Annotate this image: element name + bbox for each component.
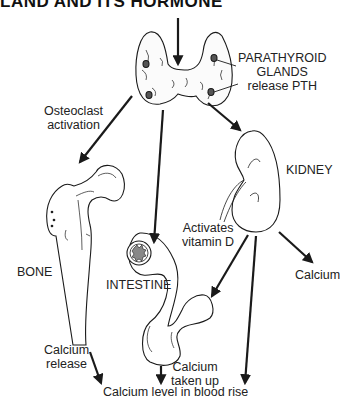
kidney-drawing (220, 131, 280, 232)
bone-drawing (47, 165, 125, 345)
arrow-glands-to-kidney (208, 103, 240, 130)
parathyroid-gland-drawing (136, 32, 238, 106)
label-line: GLANDS (238, 65, 326, 79)
label-line: activation (44, 118, 103, 132)
label-blood-calcium-rise: Calcium level in blood rise (103, 385, 248, 399)
label-line: release (44, 357, 89, 371)
label-activates-vitamin-d: Activates vitamin D (182, 221, 234, 249)
label-calcium-excretion: Calcium (295, 268, 340, 282)
label-line: PARATHYROID (238, 51, 326, 65)
label-calcium-taken-up: Calcium taken up (171, 360, 219, 388)
arrow-kidney-to-blood (245, 236, 256, 383)
label-intestine: INTESTINE (106, 278, 171, 292)
label-line: Calcium (44, 343, 89, 357)
label-line: Calcium (171, 360, 219, 374)
label-line: Activates (182, 221, 234, 235)
label-bone: BONE (17, 265, 52, 279)
label-parathyroid-glands: PARATHYROID GLANDS release PTH (238, 51, 326, 93)
arrow-glands-to-intestine (154, 110, 163, 242)
label-line: release PTH (238, 79, 326, 93)
label-kidney: KIDNEY (286, 163, 333, 177)
arrow-kidney-to-calcium (279, 232, 312, 262)
label-osteoclast-activation: Osteoclast activation (44, 104, 103, 132)
intestine-drawing (127, 233, 213, 365)
label-line: vitamin D (182, 235, 234, 249)
label-line: Osteoclast (44, 104, 103, 118)
label-calcium-release: Calcium release (44, 343, 89, 371)
arrow-bone-to-blood (90, 352, 101, 383)
